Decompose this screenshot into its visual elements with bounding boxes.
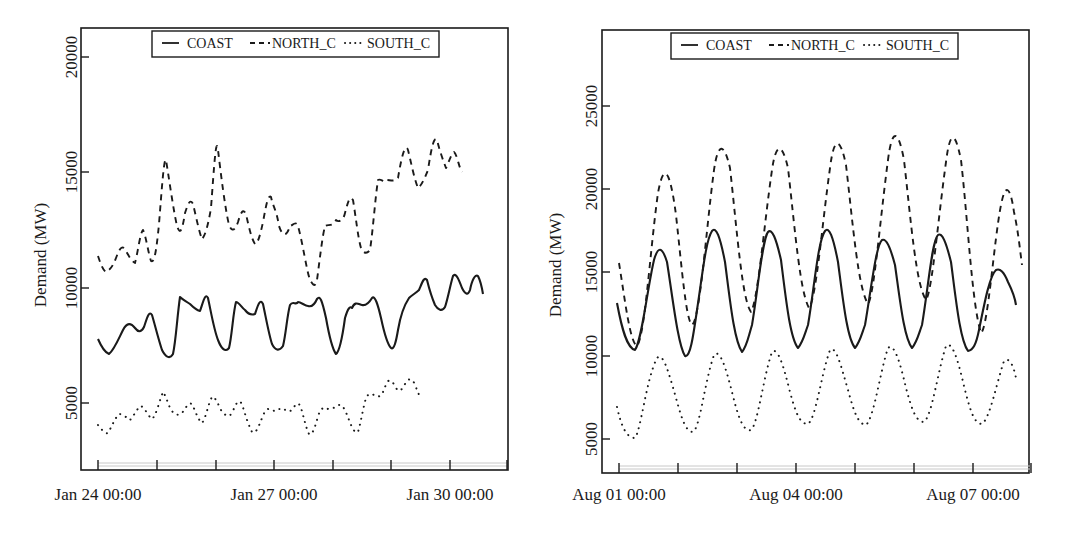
left-chart: 20000 15000 10000 5000 Demand (MW) Jan 2… [31, 28, 508, 504]
right-series-south-c [617, 345, 1016, 438]
right-xtick-aug07: Aug 07 00:00 [926, 485, 1020, 504]
right-legend-south-c: SOUTH_C [886, 38, 949, 53]
left-plot-frame [81, 28, 508, 470]
left-x-rug [98, 463, 507, 466]
left-y-axis-label: Demand (MW) [31, 203, 50, 307]
right-series-coast [617, 230, 1016, 356]
left-series-coast [98, 275, 483, 357]
right-x-ticks [619, 463, 1031, 473]
left-ytick-5000: 5000 [62, 386, 81, 420]
right-x-tick-labels: Aug 01 00:00 Aug 04 00:00 Aug 07 00:00 [572, 485, 1020, 504]
right-y-axis-label: Demand (MW) [546, 213, 565, 317]
right-legend-coast: COAST [706, 38, 752, 53]
right-legend-north-c: NORTH_C [791, 38, 855, 53]
left-legend: COAST NORTH_C SOUTH_C [152, 31, 439, 57]
left-xtick-jan24: Jan 24 00:00 [55, 485, 142, 504]
left-ytick-10000: 10000 [62, 267, 81, 310]
right-xtick-aug01: Aug 01 00:00 [572, 485, 666, 504]
right-y-ticks [602, 106, 610, 439]
right-plot-frame [602, 30, 1029, 473]
left-legend-north-c: NORTH_C [272, 36, 336, 51]
left-xtick-jan30: Jan 30 00:00 [407, 485, 494, 504]
right-legend: COAST NORTH_C SOUTH_C [671, 33, 958, 59]
right-ytick-15000: 15000 [582, 251, 601, 294]
left-x-tick-labels: Jan 24 00:00 Jan 27 00:00 Jan 30 00:00 [55, 485, 494, 504]
left-xtick-jan27: Jan 27 00:00 [231, 485, 318, 504]
left-ytick-20000: 20000 [62, 36, 81, 79]
left-series-south-c [98, 380, 422, 435]
right-ytick-10000: 10000 [582, 335, 601, 378]
right-x-rug [619, 466, 1031, 469]
right-ytick-5000: 5000 [582, 422, 601, 456]
right-y-tick-labels: 25000 20000 15000 10000 5000 [582, 85, 601, 456]
right-chart: 25000 20000 15000 10000 5000 Demand (MW)… [546, 30, 1031, 504]
figure: 20000 15000 10000 5000 Demand (MW) Jan 2… [0, 0, 1085, 540]
left-ytick-15000: 15000 [62, 151, 81, 194]
left-series-north-c [98, 139, 462, 285]
left-y-tick-labels: 20000 15000 10000 5000 [62, 36, 81, 420]
left-y-ticks [81, 57, 89, 403]
left-x-ticks [98, 460, 507, 470]
left-legend-south-c: SOUTH_C [367, 36, 430, 51]
left-legend-coast: COAST [187, 36, 233, 51]
right-ytick-20000: 20000 [582, 168, 601, 211]
right-xtick-aug04: Aug 04 00:00 [749, 485, 843, 504]
right-ytick-25000: 25000 [582, 85, 601, 128]
